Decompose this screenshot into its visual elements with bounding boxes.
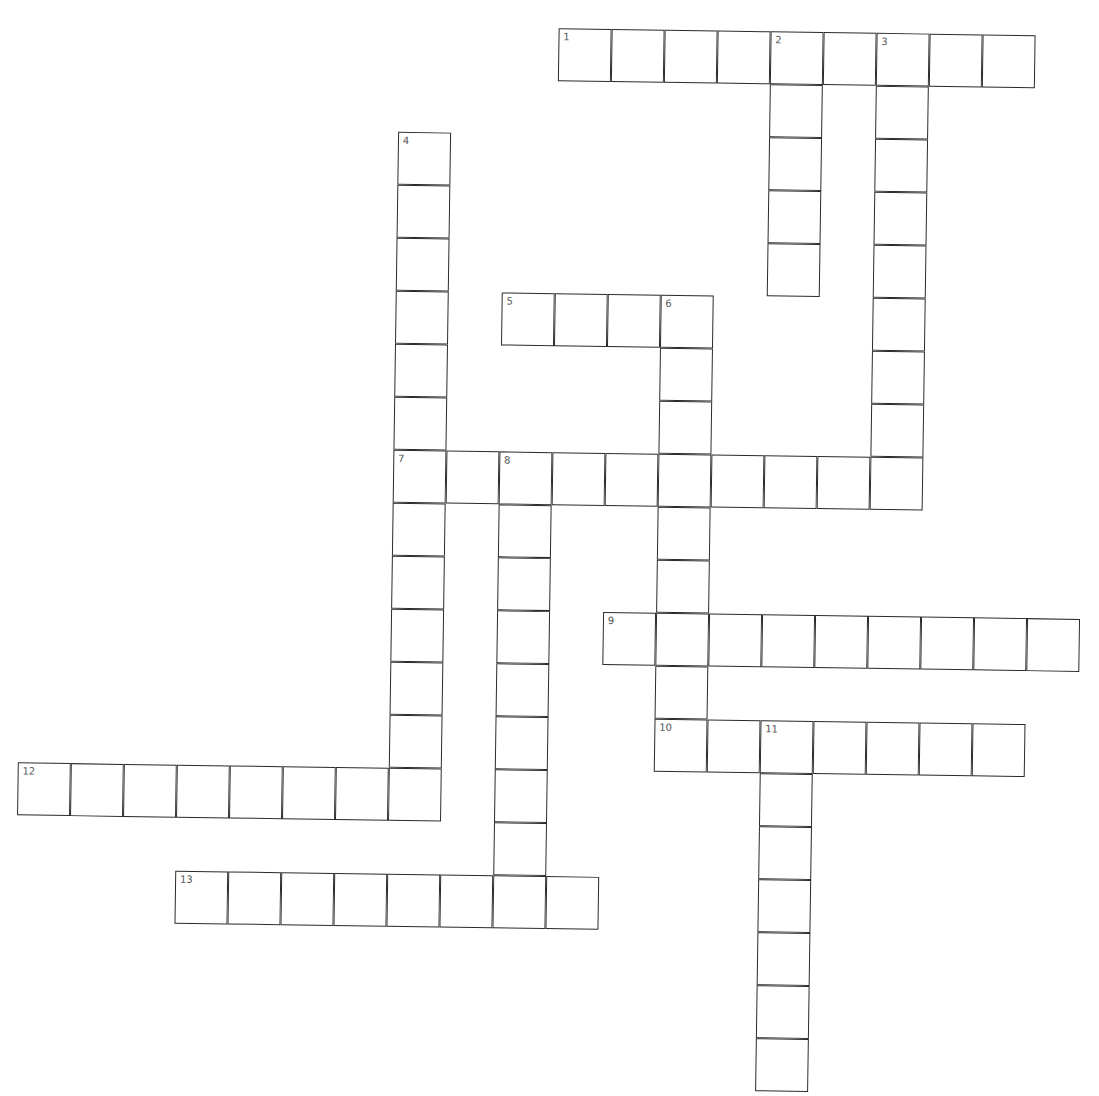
crossword-cell[interactable] <box>872 298 926 352</box>
crossword-cell[interactable]: 10 <box>654 719 708 773</box>
crossword-cell[interactable] <box>973 617 1027 671</box>
crossword-cell[interactable] <box>393 397 447 451</box>
crossword-cell[interactable] <box>768 137 822 191</box>
crossword-cell[interactable] <box>492 875 546 929</box>
crossword-cell[interactable]: 1 <box>558 28 612 82</box>
crossword-cell[interactable] <box>866 722 920 776</box>
crossword-cell[interactable] <box>707 719 761 773</box>
crossword-cell[interactable] <box>717 30 771 84</box>
crossword-cell[interactable] <box>656 560 710 614</box>
clue-number: 11 <box>765 723 778 735</box>
crossword-cell[interactable] <box>389 715 443 769</box>
crossword-cell[interactable] <box>761 614 815 668</box>
crossword-cell[interactable] <box>874 139 928 193</box>
crossword-cell[interactable] <box>664 30 718 84</box>
crossword-cell[interactable] <box>657 454 711 508</box>
crossword-cell[interactable] <box>920 616 974 670</box>
crossword-cell[interactable] <box>757 879 811 933</box>
crossword-cell[interactable]: 13 <box>174 871 228 925</box>
crossword-cell[interactable] <box>391 556 445 610</box>
crossword-cell[interactable] <box>396 185 450 239</box>
crossword-cell[interactable] <box>813 721 867 775</box>
crossword-cell[interactable] <box>869 457 923 511</box>
crossword-cell[interactable] <box>395 291 449 345</box>
crossword-cell[interactable] <box>229 765 283 819</box>
crossword-cell[interactable] <box>611 29 665 83</box>
crossword-cell[interactable] <box>814 615 868 669</box>
crossword-cell[interactable] <box>867 616 921 670</box>
crossword-cell[interactable] <box>604 453 658 507</box>
crossword-cell[interactable]: 5 <box>501 292 555 346</box>
crossword-cell[interactable] <box>282 766 336 820</box>
crossword-cell[interactable]: 2 <box>770 31 824 85</box>
crossword-cell[interactable]: 4 <box>397 132 451 186</box>
crossword-cell[interactable] <box>1026 618 1080 672</box>
crossword-cell[interactable] <box>767 190 821 244</box>
crossword-cell[interactable]: 9 <box>602 612 656 666</box>
crossword-cell[interactable] <box>659 348 713 402</box>
crossword-cell[interactable] <box>493 822 547 876</box>
crossword-cell[interactable] <box>710 454 764 508</box>
crossword-cell[interactable] <box>873 245 927 299</box>
crossword-cell[interactable] <box>227 871 281 925</box>
crossword-cell[interactable] <box>396 238 450 292</box>
crossword-cell[interactable] <box>494 769 548 823</box>
crossword-cell[interactable] <box>657 507 711 561</box>
crossword-cell[interactable] <box>870 404 924 458</box>
crossword-cell[interactable] <box>756 985 810 1039</box>
crossword-cell[interactable]: 12 <box>17 762 71 816</box>
crossword-cell[interactable] <box>388 768 442 822</box>
crossword-cell[interactable] <box>439 874 493 928</box>
crossword-cell[interactable] <box>767 243 821 297</box>
crossword-cell[interactable] <box>919 722 973 776</box>
crossword-cell[interactable] <box>554 293 608 347</box>
crossword-cell[interactable] <box>333 873 387 927</box>
crossword-cell[interactable] <box>70 763 124 817</box>
crossword-cell[interactable] <box>873 192 927 246</box>
clue-number: 13 <box>180 874 193 886</box>
crossword-cell[interactable] <box>390 609 444 663</box>
crossword-cell[interactable] <box>769 84 823 138</box>
crossword-cell[interactable] <box>982 34 1036 88</box>
crossword-cell[interactable]: 7 <box>392 450 446 504</box>
crossword-cell[interactable] <box>123 764 177 818</box>
crossword-cell[interactable] <box>495 716 549 770</box>
crossword-cell[interactable] <box>392 503 446 557</box>
crossword-cell[interactable] <box>972 723 1026 777</box>
crossword-cell[interactable] <box>755 1038 809 1092</box>
crossword-cell[interactable] <box>756 932 810 986</box>
crossword-cell[interactable] <box>497 557 551 611</box>
crossword-cell[interactable] <box>496 610 550 664</box>
crossword-cell[interactable] <box>658 401 712 455</box>
crossword-cell[interactable] <box>759 773 813 827</box>
crossword-cell[interactable] <box>445 450 499 504</box>
clue-number: 4 <box>403 135 410 147</box>
crossword-cell[interactable]: 3 <box>876 33 930 87</box>
crossword-cell[interactable] <box>654 666 708 720</box>
crossword-cell[interactable] <box>758 826 812 880</box>
crossword-cell[interactable] <box>389 662 443 716</box>
crossword-cell[interactable] <box>708 613 762 667</box>
crossword-cell[interactable] <box>929 34 983 88</box>
crossword-cell[interactable]: 11 <box>760 720 814 774</box>
crossword-cell[interactable] <box>871 351 925 405</box>
crossword-cell[interactable] <box>655 613 709 667</box>
crossword-cell[interactable]: 8 <box>498 451 552 505</box>
crossword-cell[interactable] <box>763 455 817 509</box>
crossword-cell[interactable] <box>280 872 334 926</box>
clue-number: 10 <box>659 722 672 734</box>
crossword-cell[interactable] <box>498 504 552 558</box>
crossword-cell[interactable] <box>551 452 605 506</box>
crossword-cell[interactable] <box>823 32 877 86</box>
crossword-cell[interactable] <box>176 765 230 819</box>
clue-number: 6 <box>665 298 672 310</box>
crossword-cell[interactable] <box>335 767 389 821</box>
crossword-cell[interactable] <box>495 663 549 717</box>
crossword-cell[interactable] <box>607 294 661 348</box>
crossword-cell[interactable] <box>394 344 448 398</box>
crossword-cell[interactable] <box>386 874 440 928</box>
crossword-cell[interactable] <box>545 876 599 930</box>
crossword-cell[interactable] <box>816 456 870 510</box>
crossword-cell[interactable] <box>875 86 929 140</box>
crossword-cell[interactable]: 6 <box>660 295 714 349</box>
